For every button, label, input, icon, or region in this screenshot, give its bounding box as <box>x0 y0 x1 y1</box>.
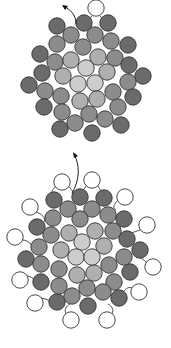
bead-white <box>117 189 133 205</box>
bead-light <box>53 242 69 258</box>
bead-mid <box>110 99 126 115</box>
bead-dark <box>132 242 148 258</box>
thread-path <box>114 200 118 210</box>
bead-dark <box>49 294 65 310</box>
bead-mid <box>105 84 121 100</box>
bead-lightest <box>78 60 94 76</box>
bead-dark <box>84 125 100 141</box>
bead-mid <box>53 88 69 104</box>
bead-dark <box>36 99 52 115</box>
arrowhead-icon <box>73 152 78 158</box>
bead-mid <box>97 111 113 127</box>
top-bead-cluster <box>21 0 151 141</box>
bead-dark <box>111 290 127 306</box>
bead-lightest <box>68 249 84 265</box>
bead-mid <box>33 256 49 272</box>
bead-mid <box>81 106 97 122</box>
bead-dark <box>49 18 65 34</box>
bead-white <box>63 312 79 328</box>
bead-white <box>88 0 104 16</box>
bead-mid <box>67 115 83 131</box>
bead-light <box>86 265 102 281</box>
bead-white <box>131 284 147 300</box>
bead-mid <box>45 210 61 226</box>
bead-white <box>54 174 70 190</box>
bead-mid <box>43 227 59 243</box>
bead-mid <box>105 223 121 239</box>
bead-white <box>7 229 23 245</box>
bead-dark <box>34 65 50 81</box>
bead-white <box>12 272 28 288</box>
bead-dark <box>125 89 141 105</box>
bead-lightest <box>84 249 100 265</box>
bead-dark <box>52 121 68 137</box>
bead-light <box>69 267 85 283</box>
bead-mid <box>31 239 47 255</box>
bead-light <box>55 68 71 84</box>
bead-dark <box>122 264 138 280</box>
bead-mid <box>103 33 119 49</box>
thread-arrow <box>72 154 78 193</box>
bead-mid <box>49 36 65 52</box>
bead-dark <box>100 15 116 31</box>
bead-dark <box>21 77 37 93</box>
bead-mid <box>37 83 53 99</box>
bead-mid <box>64 288 80 304</box>
bead-dark <box>33 274 49 290</box>
bead-mid <box>87 27 103 43</box>
bead-mid <box>75 39 91 55</box>
bead-dark <box>113 117 129 133</box>
bead-dark <box>80 298 96 314</box>
bead-white <box>22 199 38 215</box>
bead-dark <box>72 189 88 205</box>
bead-white <box>99 312 115 328</box>
bead-mid <box>63 27 79 43</box>
bead-lightest <box>74 234 90 250</box>
bead-dark <box>46 192 62 208</box>
bead-mid <box>72 211 88 227</box>
arrowhead-icon <box>62 5 68 10</box>
bead-mid <box>120 74 136 90</box>
bead-white <box>27 295 43 311</box>
bead-mid <box>101 257 117 273</box>
bead-dark <box>32 46 48 62</box>
bead-mid <box>95 284 111 300</box>
bead-mid <box>54 104 70 120</box>
bead-lightest <box>70 76 86 92</box>
bead-white <box>84 172 100 188</box>
bead-white <box>145 259 161 275</box>
bead-light <box>87 223 103 239</box>
bead-mid <box>116 249 132 265</box>
bead-dark <box>120 37 136 53</box>
bead-mid <box>51 261 67 277</box>
bead-lightest <box>87 75 103 91</box>
bead-dark <box>135 68 151 84</box>
bead-white <box>139 217 155 233</box>
bead-mid <box>100 207 116 223</box>
bead-dark <box>18 251 34 267</box>
beadwork-diagram <box>0 0 171 348</box>
bead-light <box>63 52 79 68</box>
bead-light <box>89 91 105 107</box>
bottom-bead-cluster <box>7 152 161 328</box>
bead-dark <box>121 57 137 73</box>
